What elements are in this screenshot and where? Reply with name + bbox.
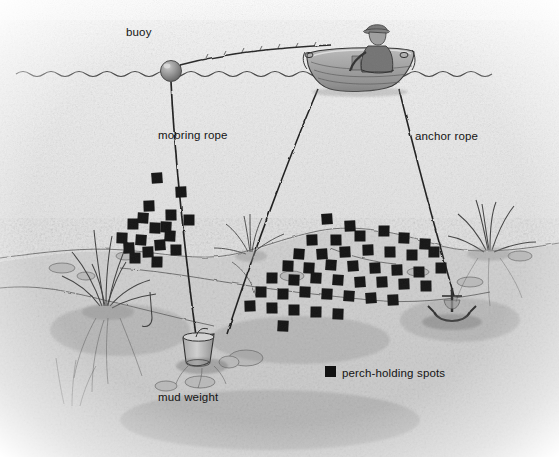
label-anchor-rope: anchor rope	[415, 131, 478, 143]
final-grain	[0, 0, 559, 457]
label-buoy: buoy	[126, 27, 152, 39]
illustration-canvas: buoy mooring rope anchor rope mud weight…	[0, 0, 559, 457]
legend-label-perch-holding-spots: perch-holding spots	[342, 368, 445, 380]
label-mooring-rope: mooring rope	[158, 130, 228, 142]
legend-swatch-icon	[325, 366, 336, 377]
label-mud-weight: mud weight	[158, 392, 218, 404]
pencil-illustration	[0, 0, 559, 457]
